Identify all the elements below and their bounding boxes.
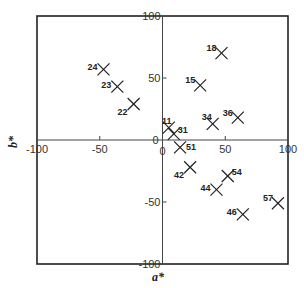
- data-points: 242322181534361131514254445746: [87, 43, 283, 220]
- point-label: 31: [178, 125, 188, 135]
- point-label: 36: [223, 108, 233, 118]
- y-tick-label: -50: [145, 196, 161, 208]
- data-point-46: 46: [227, 207, 249, 220]
- data-point-24: 24: [87, 62, 109, 75]
- point-label: 18: [206, 43, 216, 53]
- point-label: 34: [202, 112, 212, 122]
- point-label: 15: [185, 75, 195, 85]
- y-tick-label: 50: [148, 72, 160, 84]
- point-label: 54: [232, 167, 242, 177]
- x-axis-title: a*: [152, 270, 165, 284]
- point-label: 51: [186, 142, 196, 152]
- data-point-15: 15: [185, 75, 206, 91]
- scatter-chart: -100-50050100-100-50050100 2423221815343…: [0, 0, 304, 288]
- x-tick-label: 100: [279, 143, 297, 155]
- point-label: 46: [227, 207, 237, 217]
- point-label: 24: [87, 62, 97, 72]
- y-tick-label: 100: [142, 10, 160, 22]
- point-label: 23: [101, 80, 111, 90]
- point-label: 22: [118, 107, 128, 117]
- x-tick-label: 50: [219, 143, 231, 155]
- data-point-34: 34: [202, 112, 219, 130]
- data-point-51: 51: [174, 141, 196, 153]
- x-tick-label: 0: [160, 145, 166, 157]
- data-point-36: 36: [223, 108, 244, 124]
- data-point-54: 54: [222, 167, 242, 182]
- data-point-57: 57: [263, 193, 284, 209]
- x-tick-label: -50: [92, 143, 108, 155]
- y-axis-title: b*: [6, 135, 20, 148]
- data-point-23: 23: [101, 80, 123, 93]
- point-label: 11: [162, 116, 172, 126]
- data-point-11: 11: [162, 116, 175, 134]
- data-point-44: 44: [200, 183, 222, 196]
- point-label: 44: [200, 183, 210, 193]
- data-point-18: 18: [206, 43, 227, 59]
- data-point-42: 42: [174, 161, 196, 180]
- point-label: 57: [263, 193, 273, 203]
- y-tick-label: -100: [138, 258, 160, 270]
- y-tick-label: 0: [152, 134, 158, 146]
- data-point-22: 22: [118, 98, 140, 117]
- point-label: 42: [174, 170, 184, 180]
- x-tick-label: -100: [26, 143, 48, 155]
- data-point-31: 31: [168, 125, 188, 140]
